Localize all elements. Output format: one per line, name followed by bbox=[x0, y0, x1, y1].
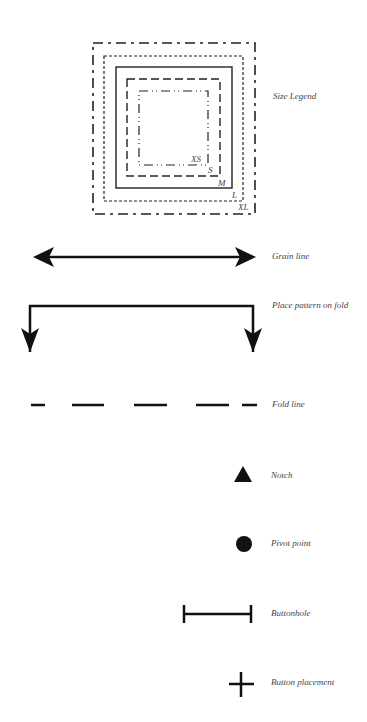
size-tag-s: S bbox=[208, 165, 213, 175]
button-placement-label: Button placement bbox=[271, 677, 334, 687]
place-on-fold-label: Place pattern on fold bbox=[272, 300, 348, 310]
pivot-point-icon bbox=[236, 536, 252, 552]
button-placement-icon bbox=[229, 672, 254, 697]
size-tag-m: M bbox=[217, 178, 226, 188]
size-tag-xl: XL bbox=[237, 202, 249, 212]
place-on-fold-icon bbox=[21, 306, 262, 352]
size-legend-graphic bbox=[93, 43, 255, 214]
size-tag-xs: XS bbox=[190, 154, 201, 164]
size-tag-l: L bbox=[231, 190, 237, 200]
pattern-legend-diagram: XS S M L XL bbox=[0, 0, 367, 722]
pivot-point-label: Pivot point bbox=[271, 538, 311, 548]
notch-icon bbox=[234, 466, 252, 482]
size-legend-label: Size Legend bbox=[273, 91, 316, 101]
buttonhole-label: Buttonhole bbox=[271, 608, 311, 618]
grain-line-icon bbox=[33, 247, 256, 267]
buttonhole-icon bbox=[184, 605, 251, 623]
size-box-s bbox=[127, 79, 220, 176]
size-box-m bbox=[116, 67, 232, 188]
grain-line-label: Grain line bbox=[272, 251, 309, 261]
fold-line-label: Fold line bbox=[272, 399, 305, 409]
notch-label: Notch bbox=[271, 470, 293, 480]
